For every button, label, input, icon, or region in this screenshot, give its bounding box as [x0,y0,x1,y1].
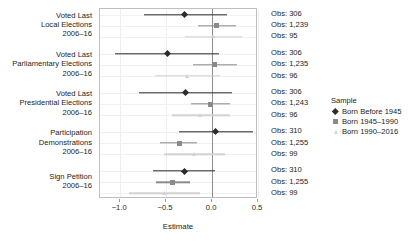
observations-label: Obs: 306 [271,87,302,96]
forest-plot-figure: Voted Last Local Elections 2006–16Voted … [0,0,416,242]
estimate-point-marker [182,89,189,96]
estimate-point-marker [185,74,189,78]
estimate-row [100,59,256,70]
group-label: Sign Petition 2006–16 [0,172,96,190]
observations-label: Obs: 306 [271,48,302,57]
estimate-row [100,126,256,137]
estimate-row [100,149,256,160]
observations-label: Obs: 1,255 [271,177,308,186]
gridline-vertical [258,9,259,197]
estimate-point-marker [208,102,213,107]
estimate-row [100,188,256,199]
legend: Sample Born Before 1945Born 1945–1990Bor… [331,96,402,137]
x-axis-tick [165,199,166,202]
observations-label: Obs: 96 [271,71,298,80]
estimate-point-marker [211,34,215,38]
legend-marker-diamond-icon [331,109,340,114]
observations-label: Obs: 1,255 [271,138,308,147]
estimate-point-marker [198,113,202,117]
estimate-point-marker [170,180,175,185]
observations-label: Obs: 310 [271,126,302,135]
group-label: Voted Last Local Elections 2006–16 [0,11,96,39]
legend-title: Sample [331,96,402,105]
legend-item-label: Born 1990–2016 [342,127,398,136]
legend-item[interactable]: Born Before 1945 [331,107,402,117]
estimate-row [100,138,256,149]
observations-label: Obs: 306 [271,9,302,18]
observations-label: Obs: 1,243 [271,98,308,107]
legend-marker-square-icon [331,119,340,124]
estimate-row [100,110,256,121]
x-axis-tick-label: 0.0 [206,203,217,212]
estimate-point-marker [181,167,188,174]
x-axis-tick-label: 0.5 [252,203,263,212]
legend-item[interactable]: Born 1945–1990 [331,117,402,127]
estimate-row [100,48,256,59]
estimate-row [100,9,256,20]
estimate-row [100,20,256,31]
estimate-point-marker [212,62,217,67]
estimate-point-marker [212,128,219,135]
estimate-row [100,32,256,43]
x-axis-tick [257,199,258,202]
x-axis-title: Estimate [99,222,257,231]
estimate-row [100,71,256,82]
observations-label: Obs: 95 [271,31,298,40]
x-axis-tick-label: −0.5 [158,203,173,212]
observations-label: Obs: 1,239 [271,20,308,29]
observations-label: Obs: 1,235 [271,59,308,68]
observations-label: Obs: 99 [271,188,298,197]
estimate-row [100,177,256,188]
estimate-point-marker [164,50,171,57]
group-label: Voted Last Presidential Elections 2006–1… [0,89,96,117]
observations-label: Obs: 310 [271,165,302,174]
legend-items: Born Before 1945Born 1945–1990Born 1990–… [331,107,402,137]
estimate-row [100,166,256,177]
group-label: Participation Demonstrations 2006–16 [0,128,96,156]
x-axis-tick [119,199,120,202]
plot-panel [99,8,257,198]
legend-item-label: Born 1945–1990 [342,117,398,126]
legend-item-label: Born Before 1945 [342,107,402,116]
legend-marker-triangle-icon [331,130,340,134]
x-axis-tick-label: −1.0 [112,203,127,212]
estimate-point-marker [192,152,196,156]
observations-label: Obs: 99 [271,149,298,158]
estimate-point-marker [214,23,219,28]
group-label: Voted Last Parliamentary Elections 2006–… [0,50,96,78]
legend-item[interactable]: Born 1990–2016 [331,127,402,137]
estimate-row [100,87,256,98]
estimate-row [100,99,256,110]
estimate-point-marker [181,11,188,18]
x-axis-tick [211,199,212,202]
observations-label: Obs: 96 [271,110,298,119]
estimate-point-marker [177,141,182,146]
estimate-point-marker [162,191,166,195]
